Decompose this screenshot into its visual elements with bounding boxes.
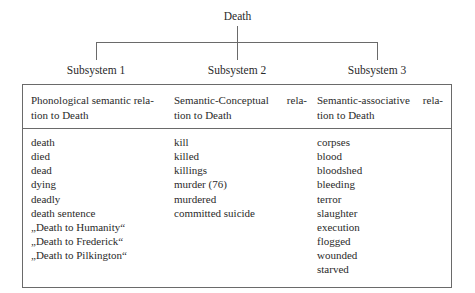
list-item: „Death to Frederick“: [31, 234, 127, 248]
subsystem-2-label: Subsystem 2: [167, 64, 307, 76]
list-item: kill: [174, 135, 255, 149]
root-node-death: Death: [0, 10, 475, 22]
connector-subsystem-3: [377, 42, 378, 60]
list-item: killings: [174, 163, 255, 177]
column-header: Semantic-Conceptualrela- tion to Death: [174, 93, 307, 122]
header-text-line2: tion to Death: [317, 108, 443, 123]
connector-root-vertical: [237, 26, 238, 60]
list-item: blood: [317, 149, 362, 163]
item-list: corpses blood bloodshed bleeding terror …: [317, 135, 362, 277]
subsystem-3-label: Subsystem 3: [307, 64, 447, 76]
subsystem-1-label: Subsystem 1: [26, 64, 166, 76]
list-item: slaughter: [317, 206, 362, 220]
connector-subsystem-1: [96, 42, 97, 60]
list-item: bleeding: [317, 177, 362, 191]
list-item: death: [31, 135, 127, 149]
header-text: Semantic-Conceptual: [174, 93, 269, 108]
header-text: Phonological semantic rela-: [31, 93, 154, 108]
list-item: corpses: [317, 135, 362, 149]
list-item: murder (76): [174, 177, 255, 191]
list-item: bloodshed: [317, 163, 362, 177]
list-item: died: [31, 149, 127, 163]
header-text-line2: tion to Death: [31, 108, 163, 123]
list-item: death sentence: [31, 206, 127, 220]
list-item: deadly: [31, 192, 127, 206]
list-item: execution: [317, 220, 362, 234]
list-item: murdered: [174, 192, 255, 206]
column-header: Phonological semantic rela- tion to Deat…: [31, 93, 163, 122]
column-header: Semantic-associativerela- tion to Death: [317, 93, 443, 122]
header-separator: [23, 128, 451, 129]
list-item: killed: [174, 149, 255, 163]
list-item: terror: [317, 192, 362, 206]
list-item: wounded: [317, 248, 362, 262]
relations-table: Phonological semantic rela- tion to Deat…: [22, 84, 452, 288]
item-list: kill killed killings murder (76) murdere…: [174, 135, 255, 220]
connector-horizontal: [96, 42, 378, 43]
list-item: „Death to Humanity“: [31, 220, 127, 234]
header-text: Semantic-associative: [317, 93, 410, 108]
header-text-line2: tion to Death: [174, 108, 307, 123]
list-item: starved: [317, 262, 362, 276]
list-item: „Death to Pilkington“: [31, 248, 127, 262]
list-item: flogged: [317, 234, 362, 248]
list-item: committed suicide: [174, 206, 255, 220]
list-item: dying: [31, 177, 127, 191]
list-item: dead: [31, 163, 127, 177]
item-list: death died dead dying deadly death sente…: [31, 135, 127, 262]
